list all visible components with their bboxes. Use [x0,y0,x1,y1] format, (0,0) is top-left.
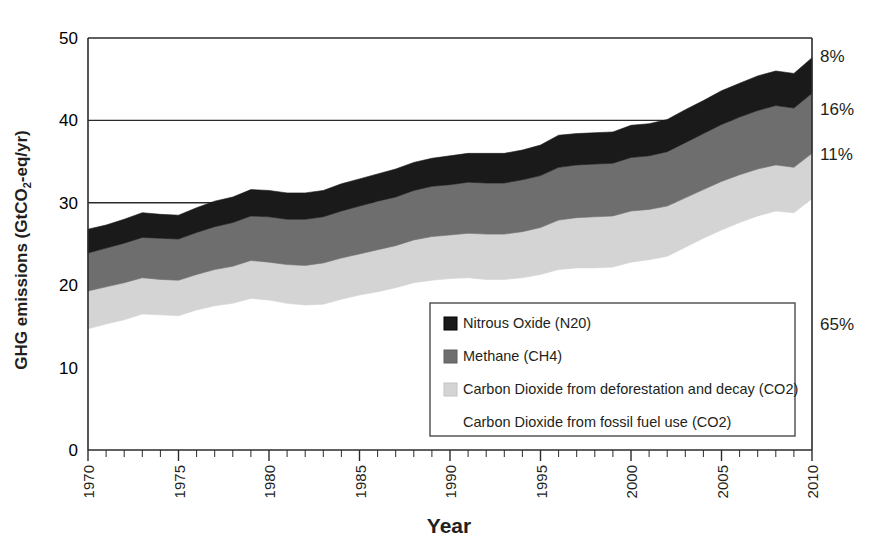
x-tick-label: 2000 [623,465,640,498]
x-tick-label: 1995 [533,465,550,498]
right-percentage-label: 16% [820,100,854,119]
y-axis-title-post: -eq/yr) [12,130,31,182]
chart-canvas: GHG emissions (GtCO2-eq/yr) 01020304050 … [0,0,885,545]
legend-swatch [444,383,457,396]
legend-swatch [444,416,457,429]
right-percentage-label: 8% [820,47,845,66]
x-axis-ticks [88,450,812,461]
ghg-emissions-chart: GHG emissions (GtCO2-eq/yr) 01020304050 … [0,0,885,545]
legend-swatch [444,350,457,363]
legend-label: Methane (CH4) [463,348,562,364]
x-tick-label: 1990 [442,465,459,498]
x-tick-label: 1970 [80,465,97,498]
legend-swatch [444,317,457,330]
right-percentage-label: 65% [820,315,854,334]
legend-label: Carbon Dioxide from fossil fuel use (CO2… [463,414,731,430]
x-tick-label: 2005 [714,465,731,498]
right-percentage-label: 11% [820,145,853,164]
legend-label: Nitrous Oxide (N20) [463,315,591,331]
x-axis-tick-labels: 197019751980198519901995200020052010 [80,465,821,498]
y-tick-label: 10 [59,359,78,378]
y-axis-tick-labels: 01020304050 [59,29,78,460]
y-tick-label: 0 [69,441,78,460]
right-percentage-labels: 8%16%11%65% [820,47,854,334]
x-tick-label: 1985 [352,465,369,498]
y-tick-label: 20 [59,276,78,295]
x-axis-title: Year [427,514,471,537]
x-tick-label: 2010 [804,465,821,498]
y-axis-title-pre: GHG emissions (GtCO [12,188,31,369]
y-tick-label: 50 [59,29,78,48]
legend: Nitrous Oxide (N20)Methane (CH4)Carbon D… [430,303,798,436]
legend-label: Carbon Dioxide from deforestation and de… [463,381,798,397]
svg-text:GHG emissions (GtCO2-eq/yr): GHG emissions (GtCO2-eq/yr) [12,130,33,369]
y-tick-label: 40 [59,111,78,130]
y-tick-label: 30 [59,194,78,213]
x-tick-label: 1975 [171,465,188,498]
y-axis-title: GHG emissions (GtCO2-eq/yr) [12,130,33,369]
x-tick-label: 1980 [261,465,278,498]
